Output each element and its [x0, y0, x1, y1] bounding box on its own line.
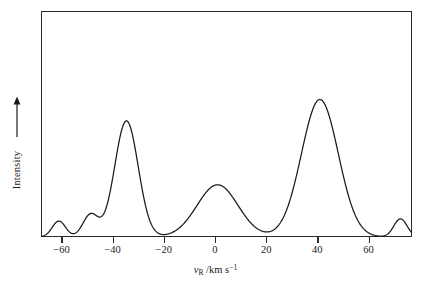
x-tick-2: [164, 237, 165, 243]
spectrum-line: [41, 99, 412, 236]
x-tick-label-1: −40: [93, 244, 133, 255]
x-axis: −60−40−200204060: [41, 237, 412, 259]
x-tick-label-3: 0: [195, 244, 235, 255]
spectrum-curve-area: [41, 11, 412, 237]
x-tick-label-6: 60: [349, 244, 389, 255]
x-tick-label-2: −20: [144, 244, 184, 255]
x-axis-superscript: −1: [229, 263, 237, 272]
x-tick-3: [215, 237, 216, 243]
x-tick-5: [317, 237, 318, 243]
y-axis-label: Intensity: [9, 124, 25, 216]
x-tick-label-5: 40: [297, 244, 337, 255]
x-tick-label-4: 20: [246, 244, 286, 255]
x-tick-6: [369, 237, 370, 243]
spectrum-figure: Intensity −60−40−200204060 vR /km s−1: [0, 0, 431, 287]
x-axis-label: vR /km s−1: [0, 263, 431, 277]
x-axis-separator: /km s: [203, 264, 229, 275]
x-tick-4: [266, 237, 267, 243]
y-axis-label-block: Intensity: [4, 96, 30, 226]
x-tick-label-0: −60: [41, 244, 81, 255]
x-tick-1: [113, 237, 114, 243]
x-tick-0: [61, 237, 62, 243]
